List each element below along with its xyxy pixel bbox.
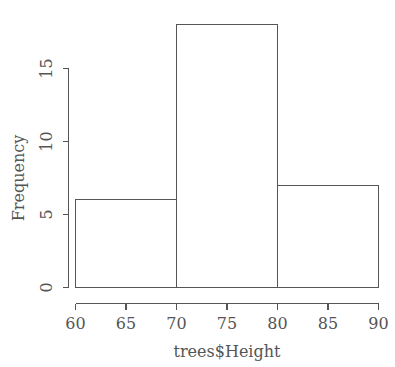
x-tick-label: 75 <box>217 314 237 333</box>
y-tick-label: 15 <box>37 58 56 78</box>
y-tick-label: 5 <box>37 209 56 219</box>
plot-canvas: 0 5 10 15 Frequency 60 65 70 75 80 85 90… <box>0 0 395 367</box>
x-tick-label: 80 <box>267 314 287 333</box>
x-tick-label: 65 <box>116 314 136 333</box>
x-tick-label: 90 <box>368 314 388 333</box>
histogram-plot: 0 5 10 15 Frequency 60 65 70 75 80 85 90… <box>0 0 395 367</box>
histogram-bar <box>76 200 177 288</box>
x-tick-label: 85 <box>318 314 338 333</box>
y-axis-title: Frequency <box>9 135 28 222</box>
histogram-bar <box>177 25 278 288</box>
x-tick-label: 70 <box>166 314 186 333</box>
bars-group <box>76 25 379 288</box>
x-axis-title: trees$Height <box>174 342 281 361</box>
x-axis: 60 65 70 75 80 85 90 trees$Height <box>65 304 388 362</box>
y-axis: 0 5 10 15 Frequency <box>9 58 69 292</box>
y-tick-label: 10 <box>37 131 56 151</box>
histogram-bar <box>278 185 379 287</box>
x-tick-label: 60 <box>65 314 85 333</box>
y-tick-label: 0 <box>37 282 56 292</box>
